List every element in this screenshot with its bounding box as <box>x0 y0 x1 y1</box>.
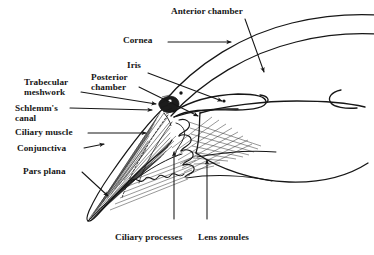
process-fold-4 <box>183 164 194 177</box>
lens-zonules-group <box>100 117 261 212</box>
label-trabecular-meshwork-line2: meshwork <box>24 87 65 97</box>
iris-group <box>173 94 268 117</box>
label-lens-zonules: Lens zonules <box>198 232 249 242</box>
eye-anatomy-figure: Anterior chamber Cornea Iris Posterior c… <box>0 0 374 255</box>
label-schlemms-canal-line2: canal <box>15 113 36 123</box>
iris-leader-terminus-dot <box>179 91 182 94</box>
label-pars-plana: Pars plana <box>23 166 66 176</box>
posterior-hyaloid <box>186 176 272 181</box>
lens-group <box>196 90 368 182</box>
label-posterior-chamber-line2: chamber <box>91 82 126 92</box>
label-schlemms-canal-line1: Schlemm's <box>15 103 58 113</box>
label-anterior-chamber: Anterior chamber <box>171 6 243 16</box>
lens-posterior-surface <box>196 153 368 182</box>
label-iris: Iris <box>127 60 141 70</box>
ciliary-body-group <box>87 106 182 221</box>
label-posterior-chamber-line1: Posterior <box>91 72 128 82</box>
posterior-chamber-terminus-dot <box>222 99 225 102</box>
label-cornea: Cornea <box>123 35 152 45</box>
label-ciliary-processes: Ciliary processes <box>115 232 182 242</box>
label-trabecular-meshwork-line1: Trabecular <box>24 77 68 87</box>
lens-equator-hook <box>329 90 357 108</box>
leader-schlemms-canal <box>70 108 152 110</box>
leader-anterior-chamber <box>245 19 264 72</box>
leader-lines-group <box>70 19 264 219</box>
label-ciliary-muscle: Ciliary muscle <box>15 127 73 137</box>
cornea-outer-arc <box>163 15 374 103</box>
leader-trabecular-meshwork <box>81 92 156 104</box>
label-conjunctiva: Conjunctiva <box>17 143 66 153</box>
leader-conjunctiva <box>84 144 104 148</box>
